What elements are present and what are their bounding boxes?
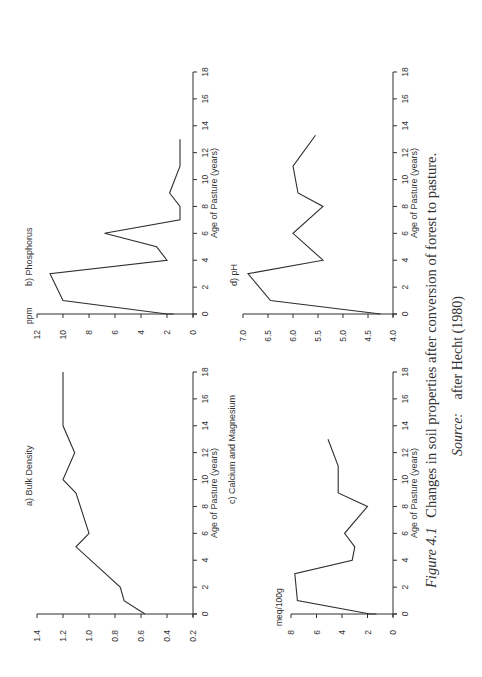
time-tick-label: 16 — [400, 94, 410, 104]
value-tick-label: 6 — [312, 630, 322, 635]
time-axis-label: Age of Pasture (years) — [209, 448, 219, 538]
time-tick-label: 2 — [400, 284, 410, 289]
chart-ph: 4.04.55.05.56.06.57.0024681012141618Age … — [229, 67, 419, 342]
data-line — [295, 439, 377, 614]
time-tick-label: 0 — [200, 611, 210, 616]
value-tick-label: 0.8 — [110, 630, 120, 642]
time-tick-label: 0 — [200, 311, 210, 316]
value-tick-label: 12 — [32, 330, 42, 340]
chart-title: a) Bulk Density — [24, 445, 34, 506]
figure-caption-label: Figure 4.1 — [423, 527, 439, 589]
data-line — [50, 139, 180, 314]
value-tick-label: 0.4 — [162, 630, 172, 642]
time-tick-label: 4 — [400, 558, 410, 563]
time-tick-label: 18 — [400, 67, 410, 77]
value-tick-label: 6 — [110, 330, 120, 335]
value-tick-label: 0 — [188, 330, 198, 335]
value-tick-label: 4 — [337, 630, 347, 635]
unit-label: meq/100g — [274, 588, 284, 626]
figure-caption-text: Changes in soil properties after convers… — [423, 153, 439, 518]
time-tick-label: 4 — [400, 258, 410, 263]
time-tick-label: 2 — [200, 284, 210, 289]
time-tick-label: 14 — [400, 121, 410, 131]
time-tick-label: 18 — [400, 367, 410, 377]
value-tick-label: 5.5 — [313, 330, 323, 342]
figure-source: Source: after Hecht (1980) — [450, 296, 466, 456]
value-tick-label: 0.6 — [136, 630, 146, 642]
chart-phosphorus: 024681012024681012141618Age of Pasture (… — [24, 67, 219, 339]
value-tick-label: 8 — [286, 630, 296, 635]
time-tick-label: 16 — [400, 394, 410, 404]
value-tick-label: 6.0 — [288, 330, 298, 342]
value-tick-label: 4.5 — [363, 330, 373, 342]
time-tick-label: 18 — [200, 367, 210, 377]
figure-canvas: 024681012024681012141618Age of Pasture (… — [0, 0, 482, 677]
time-tick-label: 14 — [200, 121, 210, 131]
value-tick-label: 5.0 — [338, 330, 348, 342]
time-tick-label: 16 — [200, 94, 210, 104]
time-tick-label: 0 — [400, 611, 410, 616]
value-tick-label: 1.2 — [58, 630, 68, 642]
figure-source-text: after Hecht (1980) — [450, 296, 466, 400]
figure-source-label: Source: — [450, 413, 465, 456]
value-tick-label: 4.0 — [388, 330, 398, 342]
value-tick-label: 2 — [363, 630, 373, 635]
figure-caption: Figure 4.1 Changes in soil properties af… — [423, 153, 439, 589]
time-axis-label: Age of Pasture (years) — [209, 148, 219, 238]
value-tick-label: 7.0 — [238, 330, 248, 342]
value-tick-label: 8 — [84, 330, 94, 335]
time-tick-label: 14 — [400, 421, 410, 431]
time-tick-label: 2 — [400, 584, 410, 589]
value-tick-label: 2 — [162, 330, 172, 335]
time-tick-label: 14 — [200, 421, 210, 431]
chart-title: b) Phosphorus — [24, 227, 34, 286]
time-tick-label: 0 — [400, 311, 410, 316]
time-tick-label: 18 — [200, 67, 210, 77]
time-tick-label: 4 — [200, 258, 210, 263]
value-tick-label: 4 — [136, 330, 146, 335]
chart-bulk-density: 0.20.40.60.81.01.21.4024681012141618Age … — [24, 367, 219, 642]
value-tick-label: 10 — [58, 330, 68, 340]
unit-label: ppm — [24, 307, 34, 324]
time-axis-label: Age of Pasture (years) — [409, 148, 419, 238]
time-tick-label: 16 — [200, 394, 210, 404]
chart-title: c) Calcium and Magnesium — [227, 395, 237, 504]
value-tick-label: 1.0 — [84, 630, 94, 642]
time-axis-label: Age of Pasture (years) — [409, 448, 419, 538]
value-tick-label: 1.4 — [32, 630, 42, 642]
chart-calcium-magnesium: 02468024681012141618Age of Pasture (year… — [227, 367, 419, 635]
rotated-figure-page: 024681012024681012141618Age of Pasture (… — [0, 0, 482, 677]
data-line — [63, 372, 145, 614]
time-tick-label: 4 — [200, 558, 210, 563]
value-tick-label: 0 — [388, 630, 398, 635]
time-tick-label: 2 — [200, 584, 210, 589]
value-tick-label: 6.5 — [263, 330, 273, 342]
chart-title: d) pH — [229, 264, 239, 286]
value-tick-label: 0.2 — [188, 630, 198, 642]
data-line — [248, 135, 381, 314]
